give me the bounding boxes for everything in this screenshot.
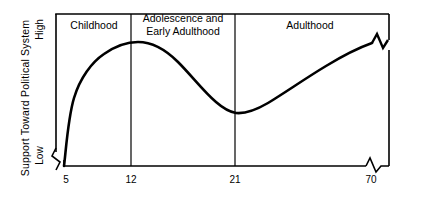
data-curve-support — [64, 42, 372, 166]
plot-area — [0, 0, 447, 197]
chart-figure: Support Toward Political System High Low… — [0, 0, 447, 197]
data-curve-break-mark — [372, 34, 388, 48]
x-axis-break-mark — [366, 158, 389, 172]
